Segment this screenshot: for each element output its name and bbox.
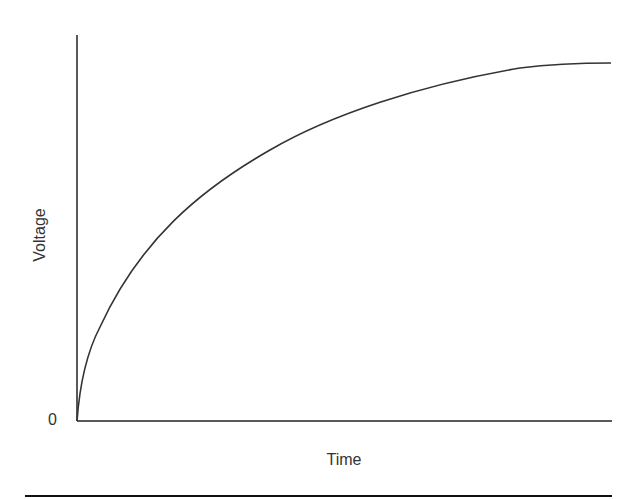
x-axis-label: Time <box>327 451 362 469</box>
chart-canvas <box>0 0 641 499</box>
y-origin-tick-label: 0 <box>48 411 57 429</box>
voltage-curve <box>77 63 611 421</box>
y-axis-label: Voltage <box>31 208 49 261</box>
